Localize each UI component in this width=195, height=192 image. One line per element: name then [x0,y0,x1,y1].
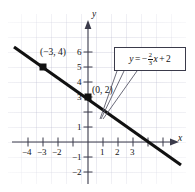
y-tick-neg1: −1 [72,153,82,162]
equation-constant: 2 [166,54,171,64]
point-label-0-2: (0, 2) [92,86,113,96]
equation-minus: − [142,54,147,64]
graph-figure: x y 6 5 4 3 1 −1 −2 −4 −3 −2 1 2 3 (−3, … [0,0,195,192]
x-tick-neg2: −2 [52,148,62,157]
fraction-denominator: 3 [148,59,153,67]
x-tick-1: 1 [100,148,105,157]
point-marker-neg3-4 [40,64,47,71]
equation-variable: x [153,54,157,64]
equation-plus: + [159,54,164,64]
plot-canvas [0,0,195,192]
equation-callout-box: y = − 2 3 x + 2 [114,47,186,71]
x-tick-2: 2 [115,148,120,157]
y-axis-label: y [92,10,96,20]
equation-lhs: y [129,54,133,64]
equation-fraction: 2 3 [148,52,153,67]
fraction-numerator: 2 [148,52,153,59]
equation-equals: = [135,54,140,64]
y-tick-4: 4 [77,78,82,87]
y-tick-neg2: −2 [72,168,82,177]
point-marker-0-2 [85,94,92,101]
y-tick-3: 3 [77,93,82,102]
x-axis-label: x [178,134,182,144]
y-tick-5: 5 [77,63,82,72]
point-label-neg3-4: (−3, 4) [40,48,66,58]
equation-text: y = − 2 3 x + 2 [129,52,171,67]
x-tick-neg4: −4 [22,148,32,157]
x-tick-3: 3 [130,148,135,157]
y-tick-6: 6 [77,48,82,57]
x-tick-neg3: −3 [37,148,47,157]
y-tick-1: 1 [77,123,82,132]
